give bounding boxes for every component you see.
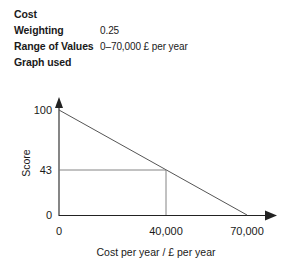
y-tick-label-0: 0 xyxy=(46,209,52,221)
specification-table: Cost Weighting 0.25 Range of Values 0–70… xyxy=(14,8,274,72)
chart-svg: 100 43 0 0 40,000 70,000 Score Cost per … xyxy=(0,84,285,269)
spec-label-range-of-values: Range of Values xyxy=(14,40,100,52)
table-row: Graph used xyxy=(14,56,274,72)
spec-value-weighting: 0.25 xyxy=(100,25,119,36)
x-axis-title: Cost per year / £ per year xyxy=(96,246,216,258)
y-tick-label-100: 100 xyxy=(34,104,52,116)
table-row: Cost xyxy=(14,8,274,24)
cost-score-graph: 100 43 0 0 40,000 70,000 Score Cost per … xyxy=(0,84,285,269)
table-row: Range of Values 0–70,000 £ per year xyxy=(14,40,274,56)
y-tick-label-43: 43 xyxy=(40,164,52,176)
table-row: Weighting 0.25 xyxy=(14,24,274,40)
x-tick-label-40000: 40,000 xyxy=(149,225,183,237)
x-axis-arrowhead xyxy=(265,211,277,221)
x-tick-label-0: 0 xyxy=(56,225,62,237)
spec-value-range-of-values: 0–70,000 £ per year xyxy=(100,41,188,52)
spec-label-graph-used: Graph used xyxy=(14,56,100,68)
y-axis-title: Score xyxy=(20,149,32,177)
spec-label-weighting: Weighting xyxy=(14,24,100,36)
spec-label-cost: Cost xyxy=(14,8,100,20)
data-series-line xyxy=(59,110,247,215)
x-tick-label-70000: 70,000 xyxy=(230,225,264,237)
y-axis-arrowhead xyxy=(55,97,63,108)
